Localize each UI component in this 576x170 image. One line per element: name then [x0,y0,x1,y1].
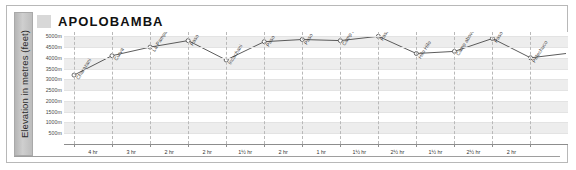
x-axis-tick-mark [302,144,303,147]
chart-title-row: APOLOBAMBA [37,13,164,30]
grid-line-vertical [302,32,303,144]
y-axis-tick-label: 3000m [46,76,62,82]
grid-line-vertical [340,32,341,144]
x-axis-tick-mark [492,144,493,147]
grid-line-vertical [112,32,113,144]
y-axis-tick-label: 2500m [46,87,62,93]
x-axis-tick-mark [264,144,265,147]
x-axis-tick-mark [150,144,151,147]
x-axis-tick-label: 2 hr [202,149,211,155]
footer-rule [14,156,560,157]
grid-line-vertical [492,32,493,144]
page-title: APOLOBAMBA [58,14,164,29]
x-axis-tick-mark [340,144,341,147]
y-axis-ticks: 500m1000m1500m2000m2500m3000m3500m4000m4… [37,32,64,144]
y-axis-tick-label: 1000m [46,119,62,125]
grid-line-vertical [454,32,455,144]
chart-frame: Elevation in metres (feet) APOLOBAMBA 50… [6,5,568,163]
y-axis-tick-label: 1500m [46,109,62,115]
x-axis-tick-mark [188,144,189,147]
plot-grid: CharazaniCurvaLa Pampa GrandePasoIncacha… [64,32,568,144]
grid-line-vertical [74,32,75,144]
x-axis-tick-label: 1½ hr [238,149,252,155]
x-axis-tick-mark [226,144,227,147]
grid-line-vertical [226,32,227,144]
y-axis-title: Elevation in metres (feet) [18,30,29,138]
x-axis-tick-label: 2 hr [507,149,516,155]
x-axis-tick-mark [454,144,455,147]
y-axis-tick-label: 5000m [46,33,62,39]
x-axis-tick-mark [530,144,531,147]
x-axis-tick-label: 1½ hr [352,149,366,155]
y-axis-tick-label: 500m [49,130,62,136]
grid-line-vertical [264,32,265,144]
x-axis-tick-mark [416,144,417,147]
y-axis-title-bar: Elevation in metres (feet) [14,12,33,156]
x-axis-tick-label: 3 hr [126,149,135,155]
grid-line-vertical [378,32,379,144]
x-axis-tick-label: 1 hr [317,149,326,155]
x-axis-tick-mark [74,144,75,147]
y-axis-tick-label: 4500m [46,44,62,50]
x-axis-tick-mark [378,144,379,147]
y-axis-tick-label: 2000m [46,98,62,104]
grid-line-vertical [530,32,531,144]
y-axis-tick-label: 3500m [46,66,62,72]
x-axis-tick-mark [112,144,113,147]
title-swatch-icon [37,15,51,28]
x-axis-tick-label: 2½ hr [390,149,404,155]
x-axis-tick-label: 2 hr [279,149,288,155]
y-axis-tick-label: 4000m [46,55,62,61]
x-axis-tick-label: 2½ hr [466,149,480,155]
x-axis-tick-label: 1½ hr [428,149,442,155]
grid-line-vertical [416,32,417,144]
grid-line-vertical [188,32,189,144]
x-axis-tick-label: 2 hr [164,149,173,155]
x-axis-tick-label: 4 hr [88,149,97,155]
plot-area: 500m1000m1500m2000m2500m3000m3500m4000m4… [37,32,568,163]
